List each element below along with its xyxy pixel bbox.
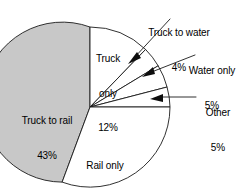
pie-label-truck-only-value: 12%: [86, 122, 130, 134]
pie-label-truck-to-rail: Truck to rail 43%: [12, 92, 82, 184]
pie-label-truck-only-line1: Truck: [86, 53, 130, 65]
pie-label-truck-to-rail-value: 43%: [12, 150, 82, 162]
pie-label-rail-only: Rail only 31%: [76, 137, 134, 194]
pie-label-other-value: 5%: [196, 142, 240, 154]
pie-label-other: Other 5%: [196, 84, 240, 176]
pie-label-truck-to-rail-line1: Truck to rail: [12, 115, 82, 127]
pie-label-other-line1: Other: [196, 107, 240, 119]
pie-chart-figure: Truck only 12% Truck to rail 43% Rail on…: [0, 0, 245, 194]
pie-label-water-only-line1: Water only: [180, 65, 244, 77]
pie-label-rail-only-line1: Rail only: [76, 160, 134, 172]
pie-label-truck-only-line2: only: [86, 88, 130, 100]
pie-label-truck-to-water-line1: Truck to water: [139, 27, 219, 39]
